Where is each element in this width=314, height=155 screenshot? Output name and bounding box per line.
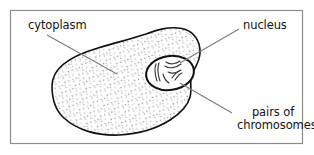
figure-canvas: cytoplasm nucleus pairs of chromosomes xyxy=(0,0,314,155)
label-nucleus: nucleus xyxy=(243,19,287,32)
label-chromosomes-line2: chromosomes xyxy=(237,119,309,132)
label-cytoplasm: cytoplasm xyxy=(28,19,87,32)
label-chromosomes: pairs of chromosomes xyxy=(237,106,309,132)
